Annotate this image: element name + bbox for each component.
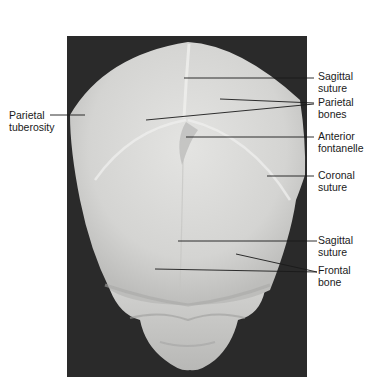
skull-figure: Sagittal suture Parietal bones Anterior … <box>0 0 385 392</box>
skull-photo <box>0 0 385 392</box>
label-frontal-bone: Frontal bone <box>318 264 351 288</box>
label-sagittal-suture-lower: Sagittal suture <box>318 234 353 258</box>
label-parietal-tuberosity: Parietal tuberosity <box>9 109 55 133</box>
label-sagittal-suture-upper: Sagittal suture <box>318 70 353 94</box>
label-anterior-fontanelle: Anterior fontanelle <box>318 130 364 154</box>
label-coronal-suture: Coronal suture <box>318 169 355 193</box>
label-parietal-bones: Parietal bones <box>318 96 354 120</box>
